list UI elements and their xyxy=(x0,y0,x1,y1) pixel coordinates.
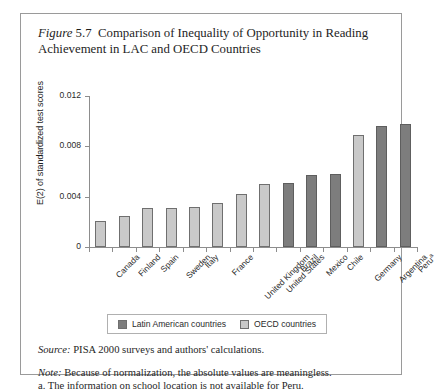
figure-number: 5.7 xyxy=(76,26,92,40)
source-label: Source: xyxy=(38,344,71,355)
legend-entry: OECD countries xyxy=(240,319,316,329)
bar xyxy=(330,174,341,247)
bar xyxy=(400,124,411,247)
x-axis-tick xyxy=(394,247,395,252)
y-axis-tick-label: 0 xyxy=(76,241,81,251)
y-axis-title: E(2) of standardized test scores xyxy=(35,68,45,218)
x-axis-tick xyxy=(183,247,184,252)
y-axis-tick-label: 0.008 xyxy=(59,140,81,150)
bar xyxy=(119,216,130,247)
x-axis-tick xyxy=(112,247,113,252)
bar xyxy=(236,194,247,247)
x-axis-tick xyxy=(89,247,90,252)
legend-label: OECD countries xyxy=(254,319,316,329)
y-axis-tick-label: 0.004 xyxy=(59,191,81,201)
bar xyxy=(166,208,177,247)
bar xyxy=(283,183,294,247)
footnote-marker: a xyxy=(428,252,435,259)
legend-swatch xyxy=(240,320,249,329)
x-axis-tick xyxy=(347,247,348,252)
legend-entry: Latin American countries xyxy=(118,319,226,329)
bar xyxy=(189,207,200,247)
x-axis-label: Chile xyxy=(345,252,366,273)
y-axis-tick-label: 0.012 xyxy=(59,90,81,100)
plot-region: 00.0040.0080.012 CanadaFinlandSpainSwede… xyxy=(89,96,417,247)
general-note: Note: Because of normalization, the abso… xyxy=(38,366,388,380)
x-axis-tick xyxy=(417,247,418,252)
legend-swatch xyxy=(118,320,127,329)
x-axis-tick xyxy=(136,247,137,252)
x-axis-tick xyxy=(230,247,231,252)
bar xyxy=(306,175,317,247)
bar xyxy=(353,135,364,247)
chart-legend: Latin American countriesOECD countries xyxy=(107,314,327,334)
bar xyxy=(142,208,153,247)
source-text: PISA 2000 surveys and authors' calculati… xyxy=(73,344,264,355)
x-axis-tick xyxy=(206,247,207,252)
figure-footnotes: Source: PISA 2000 surveys and authors' c… xyxy=(38,343,388,391)
bar xyxy=(376,126,387,247)
x-axis-tick xyxy=(159,247,160,252)
bar xyxy=(95,221,106,247)
figure-label: Figure xyxy=(38,26,72,40)
x-axis-tick xyxy=(323,247,324,252)
x-axis-tick xyxy=(370,247,371,252)
note-a-text: a. The information on school location is… xyxy=(38,379,388,391)
x-axis-tick xyxy=(276,247,277,252)
source-note: Source: PISA 2000 surveys and authors' c… xyxy=(38,343,388,357)
x-axis-tick xyxy=(253,247,254,252)
figure-title: Figure 5.7 Comparison of Inequality of O… xyxy=(38,26,388,57)
figure-container: Figure 5.7 Comparison of Inequality of O… xyxy=(20,13,402,375)
y-axis-line xyxy=(89,96,90,247)
y-axis-tick: 0.008 xyxy=(85,146,90,147)
x-axis-tick xyxy=(300,247,301,252)
bar xyxy=(259,184,270,247)
chart-area: E(2) of standardized test scores 00.0040… xyxy=(21,62,403,262)
x-axis-label: Spain xyxy=(158,252,180,274)
x-axis-label: France xyxy=(229,252,255,278)
y-axis-tick: 0.012 xyxy=(85,96,90,97)
note-label: Note: xyxy=(38,367,62,378)
y-axis-tick: 0.004 xyxy=(85,197,90,198)
legend-label: Latin American countries xyxy=(132,319,226,329)
note-text: Because of normalization, the absolute v… xyxy=(64,367,331,378)
x-axis-label: Canada xyxy=(113,252,141,280)
bar xyxy=(212,203,223,247)
